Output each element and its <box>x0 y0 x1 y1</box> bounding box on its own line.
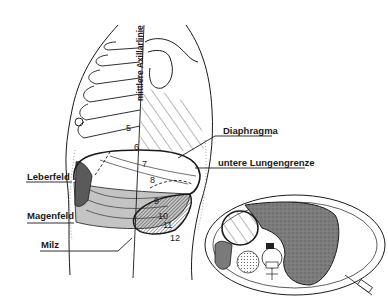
rib-number-9: 9 <box>154 197 159 206</box>
dashed-arrow <box>150 181 192 188</box>
spleen-label: Milz <box>41 240 59 250</box>
dashed-arrow-2 <box>95 152 110 175</box>
rib-number-5: 5 <box>126 124 131 133</box>
diaphragm-label: Diaphragma <box>223 126 278 136</box>
stomach-field-label: Magenfeld <box>27 211 74 221</box>
anatomical-diagram <box>0 0 388 306</box>
lower-lung-border-label: untere Lungengrenze <box>218 158 315 168</box>
rib-number-7: 7 <box>142 160 147 169</box>
rib-number-6: 6 <box>134 143 139 152</box>
cross-section <box>205 195 385 295</box>
rib-number-12: 12 <box>170 234 180 243</box>
rib-number-11: 11 <box>163 221 172 230</box>
cross-section-kidney <box>237 251 259 273</box>
cross-section-stomach <box>222 211 258 245</box>
axillary-line-label: mittlere Axillarlinie <box>136 25 145 101</box>
liver-field-label: Leberfeld <box>27 172 70 182</box>
shoulder <box>145 39 198 89</box>
lung-area <box>140 88 205 151</box>
rib-number-8: 8 <box>150 176 155 185</box>
